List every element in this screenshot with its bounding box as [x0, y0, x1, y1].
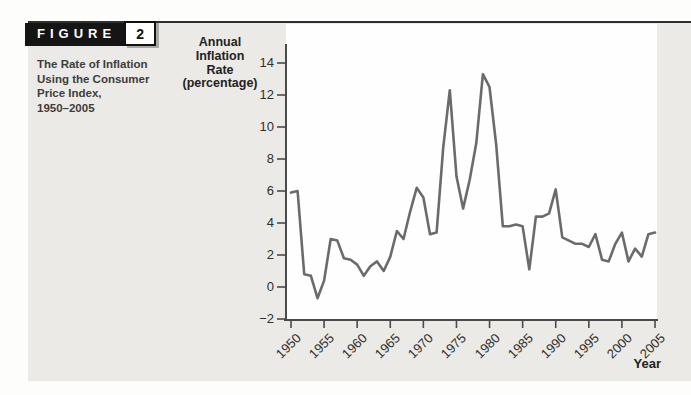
y-tick-label: 14 [260, 56, 274, 70]
y-tick-label: 0 [267, 280, 274, 294]
inflation-rate-line [291, 74, 655, 298]
y-tick-label: 6 [267, 184, 274, 198]
y-tick-label: −2 [259, 312, 274, 326]
y-tick-label: 8 [267, 152, 274, 166]
y-tick-label: 12 [260, 88, 274, 102]
y-tick-label: 4 [267, 216, 274, 230]
textbook-figure-panel: FIGURE 2 The Rate of Inflation Using the… [0, 0, 691, 395]
y-tick-label: 2 [267, 248, 274, 262]
x-axis-title: Year [634, 356, 661, 371]
y-tick-label: 10 [260, 120, 274, 134]
